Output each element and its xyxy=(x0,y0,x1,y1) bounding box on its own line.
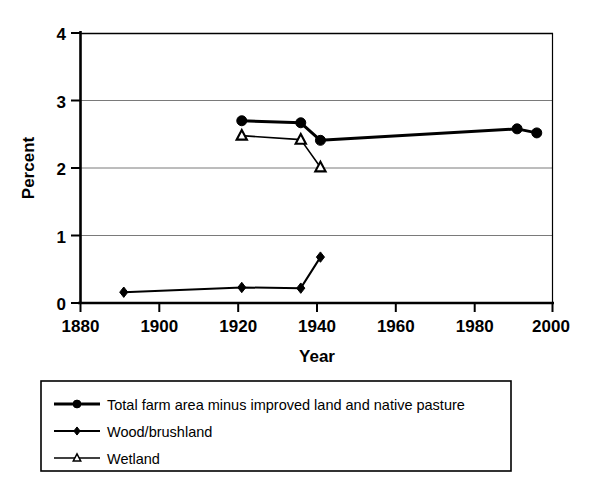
legend-label: Wetland xyxy=(107,451,160,467)
legend-item-1[interactable]: Total farm area minus improved land and … xyxy=(54,397,465,413)
x-tick-label-1980: 1980 xyxy=(456,317,494,336)
y-tick-label-1: 1 xyxy=(57,228,66,247)
x-tick-label-1880: 1880 xyxy=(62,317,100,336)
x-tick-label-1920: 1920 xyxy=(219,317,257,336)
marker-filled-circle xyxy=(296,118,306,128)
x-axis-ticks xyxy=(81,303,553,312)
marker-filled-circle xyxy=(73,400,81,408)
x-axis-title: Year xyxy=(299,347,335,366)
marker-filled-circle xyxy=(532,128,542,138)
y-tick-label-0: 0 xyxy=(57,295,66,314)
chart-figure: 4 3 2 1 0 1880 1900 1920 1940 1960 1980 … xyxy=(0,0,607,488)
legend-label: Total farm area minus improved land and … xyxy=(107,397,465,413)
marker-filled-circle xyxy=(512,124,522,134)
x-tick-label-1960: 1960 xyxy=(377,317,415,336)
x-tick-label-1900: 1900 xyxy=(140,317,178,336)
legend-label: Wood/brushland xyxy=(107,424,212,440)
x-tick-label-1940: 1940 xyxy=(298,317,336,336)
line-chart: 4 3 2 1 0 1880 1900 1920 1940 1960 1980 … xyxy=(0,0,607,488)
y-tick-label-2: 2 xyxy=(57,160,66,179)
y-axis-ticks xyxy=(71,33,80,303)
marker-filled-circle xyxy=(315,135,325,145)
y-tick-label-3: 3 xyxy=(57,93,66,112)
y-tick-label-4: 4 xyxy=(57,25,67,44)
x-tick-label-2000: 2000 xyxy=(532,317,570,336)
marker-filled-circle xyxy=(237,116,247,126)
y-axis-title: Percent xyxy=(19,136,38,199)
